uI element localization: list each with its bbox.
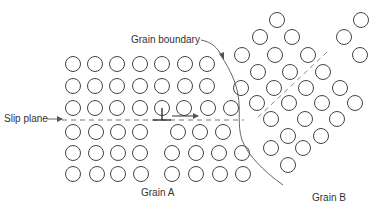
atom-circle <box>133 125 148 140</box>
atom-circle <box>212 146 227 161</box>
grain-b-label: Grain B <box>312 193 346 203</box>
diagram-canvas <box>0 0 377 213</box>
atom-circle <box>133 57 148 72</box>
atom-circle <box>216 125 231 140</box>
atom-circle <box>178 79 193 94</box>
atom-circle <box>264 112 279 127</box>
atom-circle <box>133 79 148 94</box>
atom-circle <box>201 101 216 116</box>
atom-circle <box>66 125 81 140</box>
atom-circle <box>315 96 330 111</box>
atom-circle <box>111 146 126 161</box>
atom-circle <box>171 125 186 140</box>
slip-plane-label: Slip plane <box>4 114 48 124</box>
atom-circle <box>66 79 81 94</box>
atom-circle <box>236 167 251 182</box>
atom-circle <box>235 146 250 161</box>
atom-circle <box>299 81 314 96</box>
atom-circle <box>177 101 192 116</box>
atom-circle <box>281 129 296 144</box>
atom-circle <box>178 57 193 72</box>
atom-circle <box>88 79 103 94</box>
atom-circle <box>281 158 296 173</box>
atom-circle <box>90 167 105 182</box>
grain-boundary-line <box>201 40 283 185</box>
atom-circle <box>282 96 297 111</box>
grain-b-atoms <box>234 13 369 173</box>
atom-circle <box>133 146 148 161</box>
edge-dislocation-symbol <box>153 108 171 120</box>
grain-boundary-diagram: Grain boundary Slip plane Grain A Grain … <box>0 0 377 213</box>
atom-circle <box>251 65 266 80</box>
atom-circle <box>111 167 126 182</box>
atom-circle <box>316 65 331 80</box>
atom-circle <box>88 57 103 72</box>
atom-circle <box>330 112 345 127</box>
atom-circle <box>200 79 215 94</box>
atom-circle <box>89 125 104 140</box>
atom-circle <box>235 48 250 63</box>
atom-circle <box>165 146 180 161</box>
atom-circle <box>66 101 81 116</box>
atom-circle <box>193 125 208 140</box>
atom-circle <box>134 167 149 182</box>
grain-a-atoms <box>66 57 251 182</box>
atom-circle <box>354 13 369 28</box>
atom-circle <box>66 167 81 182</box>
atom-circle <box>267 81 282 96</box>
atom-circle <box>270 13 285 28</box>
atom-circle <box>298 112 313 127</box>
atom-circle <box>111 125 126 140</box>
atom-circle <box>89 146 104 161</box>
atom-circle <box>285 30 300 45</box>
atom-circle <box>296 141 311 156</box>
atom-circle <box>301 48 316 63</box>
atom-circle <box>189 146 204 161</box>
atom-circle <box>314 129 329 144</box>
atom-circle <box>224 101 239 116</box>
atom-circle <box>110 79 125 94</box>
atom-circle <box>268 48 283 63</box>
atom-circle <box>353 48 368 63</box>
atom-circle <box>110 57 125 72</box>
atom-circle <box>88 101 103 116</box>
grain-boundary-label: Grain boundary <box>131 35 200 45</box>
atom-circle <box>337 30 352 45</box>
atom-circle <box>333 81 348 96</box>
atom-circle <box>155 79 170 94</box>
atom-circle <box>189 167 204 182</box>
atom-circle <box>165 167 180 182</box>
atom-circle <box>110 101 125 116</box>
atom-circle <box>155 57 170 72</box>
atom-circle <box>253 30 268 45</box>
atom-circle <box>66 146 81 161</box>
atom-circle <box>348 96 363 111</box>
atom-circle <box>264 141 279 156</box>
atom-circle <box>133 101 148 116</box>
grain-a-label: Grain A <box>141 188 174 198</box>
atom-circle <box>250 96 265 111</box>
atom-circle <box>234 81 249 96</box>
atom-circle <box>283 65 298 80</box>
atom-circle <box>213 167 228 182</box>
atom-circle <box>66 57 81 72</box>
atom-circle <box>200 57 215 72</box>
